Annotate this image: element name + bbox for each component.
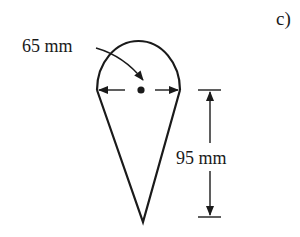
- figure-label: c): [276, 8, 291, 30]
- cone-shape: [97, 41, 180, 222]
- height-label: 95 mm: [176, 148, 227, 168]
- circle-arc: [97, 41, 180, 90]
- diagram-canvas: c) 65 mm 95 mm: [0, 0, 300, 237]
- center-dot-icon: [137, 86, 144, 93]
- diameter-label: 65 mm: [22, 36, 73, 56]
- cone-sides: [97, 90, 180, 222]
- diameter-dimension: [99, 86, 178, 93]
- height-dimension: 95 mm: [176, 90, 227, 217]
